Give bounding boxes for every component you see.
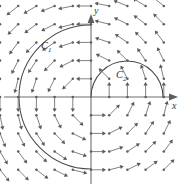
vector-shaft bbox=[61, 24, 72, 27]
vector-arrowhead bbox=[169, 140, 173, 144]
vector-shaft bbox=[55, 170, 66, 175]
vector-shaft bbox=[164, 104, 167, 115]
vector-shaft bbox=[44, 24, 55, 29]
vector-shaft bbox=[146, 124, 153, 134]
vector-shaft bbox=[62, 61, 73, 66]
curve-label-c1-base: C bbox=[41, 40, 48, 51]
vector-shaft bbox=[49, 79, 54, 90]
vector-arrowhead bbox=[76, 77, 80, 81]
vector-shaft bbox=[44, 6, 55, 10]
vector-shaft bbox=[61, 6, 73, 8]
vector-shaft bbox=[119, 52, 127, 60]
vector-shaft bbox=[55, 133, 63, 141]
axes-group bbox=[4, 14, 178, 184]
vector-shaft bbox=[9, 6, 18, 13]
vector-shaft bbox=[146, 104, 150, 115]
vector-shaft bbox=[101, 70, 109, 78]
vector-shaft bbox=[109, 148, 120, 152]
vector-arrowhead bbox=[58, 25, 62, 29]
vector-shaft bbox=[13, 61, 18, 72]
vector-arrowhead bbox=[24, 29, 28, 33]
plot-canvas bbox=[0, 0, 186, 187]
vector-arrowhead bbox=[95, 19, 99, 23]
vector-shaft bbox=[73, 170, 84, 173]
vector-arrowhead bbox=[120, 165, 124, 169]
curve-label-c2-base: C bbox=[116, 69, 123, 80]
vector-arrowhead bbox=[155, 30, 159, 34]
vector-shaft bbox=[136, 17, 145, 24]
vector-field-figure: x y C1 C2 bbox=[0, 0, 186, 187]
vector-arrowhead bbox=[44, 175, 48, 179]
vector-shaft bbox=[139, 51, 146, 61]
vector-arrowhead bbox=[162, 82, 166, 86]
curve-label-c2-subscript: 2 bbox=[123, 75, 127, 83]
vector-shaft bbox=[0, 152, 6, 162]
vector-shaft bbox=[164, 123, 169, 134]
vector-arrowhead bbox=[0, 126, 4, 130]
vector-shaft bbox=[136, 0, 146, 6]
vector-shaft bbox=[18, 115, 21, 126]
vector-arrowhead bbox=[13, 89, 17, 93]
y-axis-label: y bbox=[94, 6, 98, 16]
vector-shaft bbox=[55, 115, 60, 126]
vector-shaft bbox=[98, 21, 109, 24]
vector-shaft bbox=[0, 133, 4, 144]
curve-label-c2: C2 bbox=[116, 70, 127, 83]
vector-arrowhead bbox=[134, 15, 138, 19]
vector-shaft bbox=[127, 125, 135, 133]
vector-shaft bbox=[0, 170, 7, 179]
vector-shaft bbox=[159, 50, 164, 61]
vector-shaft bbox=[27, 24, 36, 31]
vector-arrowhead bbox=[34, 108, 38, 112]
vector-shaft bbox=[36, 170, 45, 177]
vector-shaft bbox=[0, 115, 2, 127]
vector-shaft bbox=[26, 6, 36, 12]
vector-shaft bbox=[36, 152, 44, 160]
vector-arrowhead bbox=[159, 64, 163, 68]
vector-shaft bbox=[137, 34, 145, 42]
vector-field-group bbox=[0, 0, 174, 182]
vector-shaft bbox=[36, 133, 43, 143]
vector-shaft bbox=[164, 161, 172, 169]
vector-shaft bbox=[116, 2, 127, 6]
vector-arrowhead bbox=[144, 82, 148, 86]
vector-arrowhead bbox=[153, 161, 157, 165]
vector-shaft bbox=[10, 24, 18, 32]
vector-shaft bbox=[33, 79, 37, 90]
vector-shaft bbox=[11, 42, 18, 51]
vector-shaft bbox=[127, 145, 137, 152]
vector-shaft bbox=[18, 152, 25, 161]
vector-shaft bbox=[109, 107, 117, 115]
vector-arrowhead bbox=[102, 150, 106, 154]
vector-arrowhead bbox=[58, 6, 62, 10]
vector-shaft bbox=[18, 170, 26, 178]
vector-shaft bbox=[118, 36, 128, 43]
vector-shaft bbox=[161, 67, 164, 78]
vector-shaft bbox=[155, 0, 164, 6]
vector-arrowhead bbox=[53, 108, 57, 112]
vector-shaft bbox=[127, 165, 138, 170]
vector-shaft bbox=[157, 33, 164, 42]
vector-shaft bbox=[73, 115, 81, 123]
vector-arrowhead bbox=[0, 108, 2, 112]
vector-shaft bbox=[146, 163, 155, 170]
vector-arrowhead bbox=[152, 0, 156, 1]
vector-shaft bbox=[36, 115, 40, 126]
vector-shaft bbox=[109, 167, 120, 170]
vector-shaft bbox=[109, 128, 120, 133]
vector-arrowhead bbox=[102, 168, 106, 172]
vector-arrowhead bbox=[165, 101, 169, 105]
vector-shaft bbox=[64, 79, 72, 87]
vector-shaft bbox=[127, 105, 132, 116]
vector-shaft bbox=[46, 61, 54, 69]
vector-arrowhead bbox=[71, 108, 75, 112]
x-axis-label: x bbox=[172, 101, 176, 111]
vector-shaft bbox=[30, 61, 37, 71]
vector-shaft bbox=[99, 55, 110, 60]
vector-arrowhead bbox=[107, 82, 111, 86]
curve-label-c1-subscript: 1 bbox=[48, 46, 52, 54]
vector-arrowhead bbox=[23, 159, 27, 163]
vector-arrowhead bbox=[76, 40, 80, 44]
vector-shaft bbox=[62, 42, 73, 46]
vector-arrowhead bbox=[83, 171, 87, 175]
